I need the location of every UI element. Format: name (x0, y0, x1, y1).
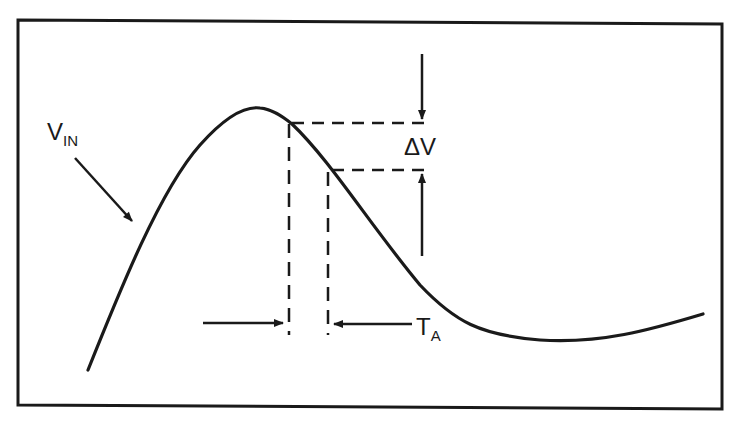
diagram-canvas: VIN ΔV TA (0, 0, 735, 423)
ta-label-main: T (416, 313, 431, 340)
vin-label-main: V (47, 118, 63, 145)
ta-label-sub: A (431, 327, 441, 344)
ta-label: TA (416, 313, 441, 344)
vin-label-sub: IN (63, 132, 78, 149)
vin-pointer-arrow (75, 158, 132, 221)
vin-label: VIN (47, 118, 78, 149)
vin-waveform-curve (88, 108, 703, 370)
diagram-frame (18, 20, 722, 409)
delta-v-label: ΔV (404, 133, 436, 160)
